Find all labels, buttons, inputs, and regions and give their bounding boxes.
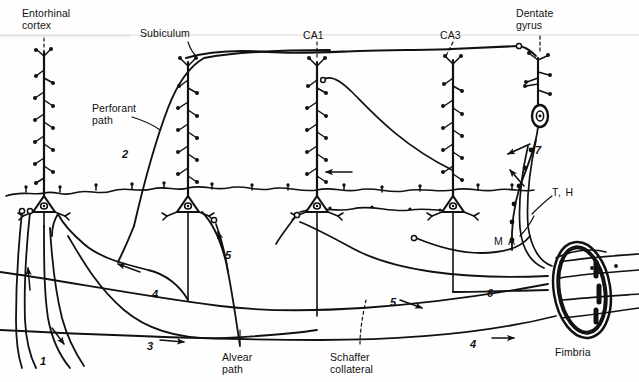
alvear-path-fibre: [202, 212, 240, 346]
entorhinal-efferent-fibres: [16, 208, 84, 368]
ca1-alveus-fibre: [276, 212, 300, 244]
label-ca3: CA3: [440, 30, 461, 42]
marker-3-label: 3: [147, 340, 153, 352]
pathway-4-fimbria-fibre: [0, 316, 556, 340]
label-ca1: CA1: [303, 30, 324, 42]
label-subiculum: Subiculum: [140, 28, 190, 40]
marker-4-label: 4: [152, 288, 158, 300]
label-dentate-gyrus: Dentate gyrus: [516, 8, 553, 31]
marker-5b-label: 5: [390, 296, 396, 308]
label-schaffer-collateral: Schaffer collateral: [330, 352, 373, 375]
label-temporoammonic-hilar: T, H: [552, 187, 574, 199]
molecular-layer-band: [6, 181, 534, 196]
marker-1-label: 1: [40, 355, 46, 367]
figure-drawing: [0, 0, 639, 382]
neuron-entorhinal-pyramidal: [18, 47, 70, 226]
label-alvear-path: Alvear path: [222, 352, 252, 375]
neuron-subiculum-pyramidal: [162, 56, 214, 300]
fimbria-bundle: [549, 240, 639, 339]
marker-4b-label: 4: [470, 338, 476, 350]
label-fimbria: Fimbria: [555, 347, 591, 359]
marker-5-label: 5: [225, 249, 231, 261]
neuron-dentate-granule: [510, 43, 552, 250]
hippocampus-figure: Entorhinal cortex Subiculum CA1 CA3 Dent…: [0, 0, 639, 382]
label-perforant-path: Perforant path: [92, 103, 136, 126]
label-mossy-associational: M A: [494, 236, 517, 248]
label-entorhinal-cortex: Entorhinal cortex: [22, 8, 70, 31]
marker-6-label: 6: [487, 287, 493, 299]
perforant-path-fibre: [118, 50, 330, 262]
marker-7-label: 7: [535, 144, 541, 156]
temporoammonic-hilar-bundle: [519, 140, 552, 268]
marker-2-label: 2: [122, 148, 128, 160]
neuron-ca1-pyramidal: [291, 56, 452, 316]
